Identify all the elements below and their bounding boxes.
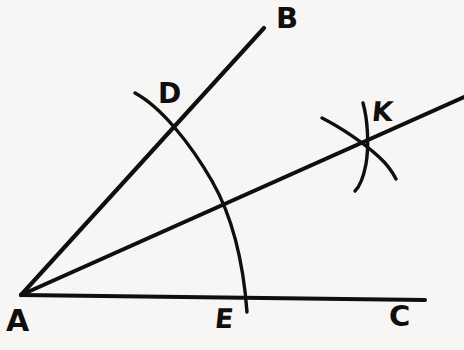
- geometry-figure: A B C D E K: [0, 0, 464, 350]
- point-label-a: A: [6, 306, 29, 336]
- ray-AC: [21, 295, 425, 300]
- point-label-d: D: [158, 80, 181, 108]
- point-label-c: C: [389, 302, 410, 331]
- point-label-k: K: [371, 98, 395, 125]
- point-label-b: B: [276, 4, 298, 33]
- point-label-e: E: [214, 305, 235, 332]
- ray-AB: [21, 28, 264, 295]
- arc-from-E-near-K: [322, 118, 396, 179]
- figure-canvas: [0, 0, 464, 350]
